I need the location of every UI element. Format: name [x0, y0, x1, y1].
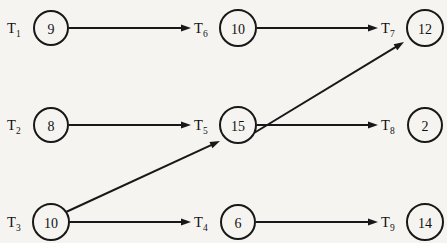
arrow-head-icon	[394, 42, 404, 50]
node-label-subscript: 9	[390, 223, 395, 233]
node-label: T	[7, 20, 16, 36]
node-t2[interactable]: 8T2	[7, 108, 68, 142]
node-t9[interactable]: 14T9	[381, 204, 443, 240]
edge-line	[66, 144, 213, 212]
node-value: 10	[231, 22, 245, 37]
edge-line	[254, 46, 397, 133]
node-value: 2	[422, 119, 429, 134]
node-label-subscript: 4	[203, 223, 208, 233]
node-label-subscript: 7	[390, 29, 395, 39]
node-t1[interactable]: 9T1	[7, 11, 68, 45]
node-t5[interactable]: 15T5	[194, 107, 256, 143]
node-label: T	[381, 117, 390, 133]
edge-t4-t9	[256, 219, 378, 226]
node-label: T	[7, 214, 16, 230]
edge-t3-t4	[69, 219, 191, 226]
node-t8[interactable]: 2T8	[381, 108, 442, 142]
edge-t2-t5	[69, 122, 191, 129]
arrow-head-icon	[368, 122, 378, 129]
arrow-head-icon	[368, 219, 378, 226]
node-t4[interactable]: 6T4	[194, 205, 255, 239]
diagram-canvas: 9T110T612T78T215T52T810T36T414T9	[0, 0, 447, 243]
node-label-subscript: 6	[203, 29, 208, 39]
node-label-subscript: 2	[16, 126, 21, 136]
node-value: 9	[48, 22, 55, 37]
arrow-head-icon	[368, 25, 378, 32]
arrow-head-icon	[181, 122, 191, 129]
node-label: T	[194, 117, 203, 133]
edge-t1-t6	[69, 25, 191, 32]
node-label-subscript: 8	[390, 126, 395, 136]
node-value: 8	[48, 119, 55, 134]
node-label-subscript: 5	[203, 126, 208, 136]
node-label: T	[381, 214, 390, 230]
node-value: 12	[418, 22, 432, 37]
edge-t3-t5	[66, 141, 220, 212]
edge-t6-t7	[257, 25, 378, 32]
node-label: T	[194, 20, 203, 36]
arrow-head-icon	[181, 219, 191, 226]
node-label: T	[381, 20, 390, 36]
node-t3[interactable]: 10T3	[7, 204, 69, 240]
node-value: 6	[235, 216, 242, 231]
node-t7[interactable]: 12T7	[381, 10, 443, 46]
arrow-head-icon	[209, 141, 220, 148]
node-value: 15	[231, 119, 245, 134]
arrow-head-icon	[181, 25, 191, 32]
node-value: 14	[418, 216, 432, 231]
node-label-subscript: 1	[16, 29, 21, 39]
node-label: T	[7, 117, 16, 133]
edge-t5-t8	[257, 122, 378, 129]
task-graph-svg: 9T110T612T78T215T52T810T36T414T9	[0, 0, 447, 243]
node-label: T	[194, 214, 203, 230]
node-label-subscript: 3	[16, 223, 21, 233]
node-value: 10	[44, 216, 58, 231]
node-t6[interactable]: 10T6	[194, 10, 256, 46]
